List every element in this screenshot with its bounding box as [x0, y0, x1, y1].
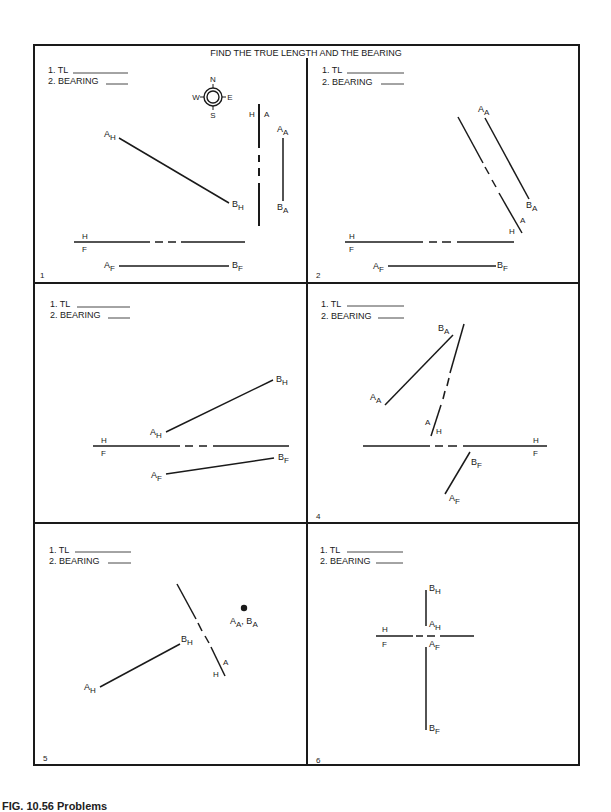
svg-text:H: H	[101, 436, 107, 445]
svg-text:AF: AF	[151, 470, 162, 483]
svg-text:BH: BH	[181, 634, 193, 647]
compass-icon: N S W E	[192, 75, 232, 120]
svg-text:A: A	[425, 418, 431, 427]
svg-text:BF: BF	[497, 260, 508, 273]
svg-text:AF: AF	[429, 639, 440, 652]
svg-text:A: A	[264, 110, 270, 119]
panel-4: 1. TL 2. BEARING AA BA A H H F BF AF 4	[316, 299, 547, 521]
svg-text:5: 5	[43, 754, 48, 763]
svg-text:BF: BF	[232, 260, 243, 273]
svg-text:1. TL: 1. TL	[320, 545, 340, 555]
svg-text:H: H	[213, 670, 219, 679]
svg-text:2. BEARING: 2. BEARING	[50, 310, 101, 320]
page-title: FIND THE TRUE LENGTH AND THE BEARING	[210, 48, 402, 58]
svg-text:W: W	[192, 93, 200, 102]
svg-text:1. TL: 1. TL	[50, 299, 70, 309]
svg-text:AH: AH	[429, 619, 441, 632]
svg-text:1. TL: 1. TL	[322, 65, 342, 75]
svg-text:2. BEARING: 2. BEARING	[322, 77, 373, 87]
panel-5: 1. TL 2. BEARING A H AH BH AA, BA 5	[43, 545, 258, 763]
svg-text:H: H	[436, 427, 442, 436]
svg-text:A: A	[520, 216, 526, 225]
bearing-label: 2. BEARING	[48, 76, 99, 86]
svg-text:AH: AH	[150, 427, 162, 440]
svg-text:H: H	[349, 232, 355, 241]
svg-text:H: H	[82, 232, 88, 241]
svg-text:BA: BA	[438, 323, 450, 336]
svg-text:2: 2	[316, 271, 321, 280]
svg-text:BF: BF	[278, 452, 289, 465]
panel-3: 1. TL 2. BEARING AH BH H F AF BF	[50, 299, 289, 483]
svg-text:H: H	[382, 625, 388, 634]
svg-text:4: 4	[316, 512, 321, 521]
svg-text:AA: AA	[478, 104, 490, 117]
svg-text:F: F	[382, 640, 387, 649]
panel-number: 1	[40, 271, 45, 280]
frame	[34, 45, 579, 765]
svg-text:AF: AF	[373, 261, 384, 274]
svg-text:1. TL: 1. TL	[49, 545, 69, 555]
svg-text:AH: AH	[84, 682, 96, 695]
svg-text:6: 6	[316, 756, 321, 765]
svg-text:BH: BH	[276, 374, 288, 387]
svg-text:F: F	[533, 449, 538, 458]
svg-text:AF: AF	[104, 260, 115, 273]
svg-text:AA, BA: AA, BA	[230, 616, 258, 629]
svg-text:F: F	[349, 245, 354, 254]
svg-text:H: H	[533, 436, 539, 445]
svg-text:BF: BF	[471, 457, 482, 470]
svg-text:A: A	[223, 658, 229, 667]
figure-caption: FIG. 10.56 Problems	[2, 800, 107, 812]
panel-6: 1. TL 2. BEARING BH AH H F AF BF 6	[316, 545, 474, 765]
svg-text:H: H	[249, 110, 255, 119]
svg-text:F: F	[82, 245, 87, 254]
svg-text:E: E	[227, 93, 232, 102]
tl-label: 1. TL	[48, 65, 68, 75]
svg-text:2. BEARING: 2. BEARING	[320, 556, 371, 566]
point-view-dot	[241, 605, 247, 611]
svg-text:BA: BA	[277, 202, 289, 215]
svg-text:F: F	[101, 449, 106, 458]
svg-text:AF: AF	[449, 493, 460, 506]
panel-1: 1. TL 2. BEARING N S W E AH BH H A A	[40, 65, 289, 280]
svg-text:AA: AA	[277, 124, 289, 137]
svg-text:BA: BA	[526, 200, 538, 213]
svg-text:S: S	[210, 111, 215, 120]
svg-text:BH: BH	[232, 199, 244, 212]
svg-text:BH: BH	[429, 583, 441, 596]
svg-text:N: N	[210, 75, 216, 84]
svg-text:1. TL: 1. TL	[321, 299, 341, 309]
svg-text:AA: AA	[370, 392, 382, 405]
panel-2: 1. TL 2. BEARING A H AA BA H F AF BF 2	[316, 65, 538, 280]
svg-text:2. BEARING: 2. BEARING	[49, 556, 100, 566]
svg-text:H: H	[509, 227, 515, 236]
svg-text:BF: BF	[429, 723, 440, 736]
svg-text:AH: AH	[104, 129, 116, 142]
svg-text:2. BEARING: 2. BEARING	[321, 311, 372, 321]
